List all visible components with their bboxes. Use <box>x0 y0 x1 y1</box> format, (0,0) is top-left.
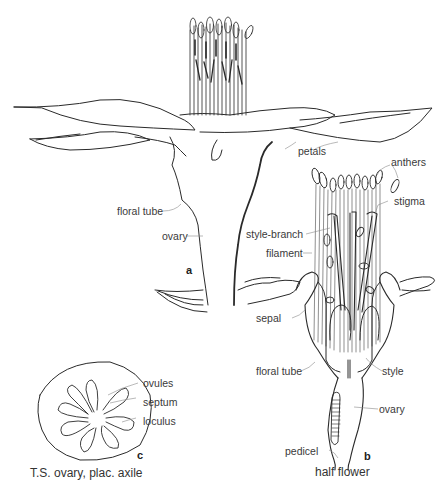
label-filament: filament <box>266 248 303 259</box>
label-floral-tube-b: floral tube <box>256 366 302 377</box>
label-floral-tube-a: floral tube <box>117 206 163 217</box>
panel-letter-b: b <box>364 451 371 462</box>
label-style: style <box>382 366 404 377</box>
caption-ts-ovary: T.S. ovary, plac. axile <box>30 467 143 479</box>
label-pedicel: pedicel <box>285 446 318 457</box>
label-loculus: loculus <box>143 416 176 427</box>
caption-half-flower: half flower <box>315 466 370 478</box>
panel-c-drawing <box>38 362 151 460</box>
label-ovary-b: ovary <box>379 404 405 415</box>
panel-letter-a: a <box>186 265 192 276</box>
stamen-column-a <box>190 17 255 115</box>
label-ovules: ovules <box>143 378 173 389</box>
label-sepal: sepal <box>256 313 281 324</box>
label-anthers: anthers <box>391 157 426 168</box>
label-style-branch: style-branch <box>246 229 303 240</box>
label-ovary-a: ovary <box>162 231 188 242</box>
botanical-figure: petals floral tube ovary a anthers stigm… <box>0 0 444 491</box>
flower-illustration <box>0 0 444 491</box>
label-septum: septum <box>143 397 177 408</box>
label-petals: petals <box>298 146 326 157</box>
panel-letter-c: c <box>137 450 143 461</box>
label-stigma: stigma <box>394 196 425 207</box>
